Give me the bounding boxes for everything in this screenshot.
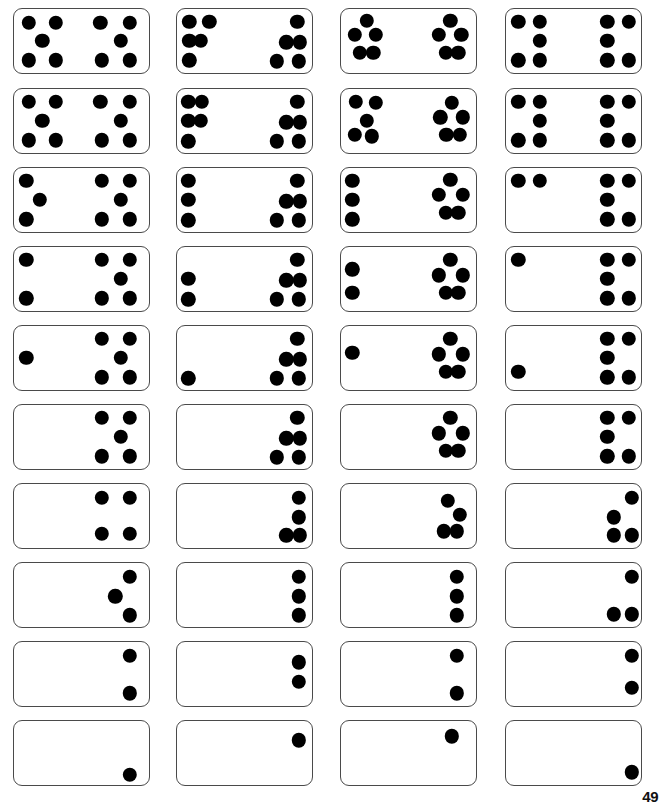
domino-half-right [245,9,313,73]
domino-pip [181,174,195,188]
domino-tile[interactable] [13,483,150,549]
domino-pip [600,114,614,128]
domino-tile[interactable] [13,641,150,707]
domino-tile[interactable] [505,483,642,549]
domino-tile[interactable] [505,88,642,154]
domino-pip [123,212,137,226]
domino-pip [95,332,109,346]
domino-pip [19,212,33,226]
domino-pip [451,206,465,220]
domino-tile[interactable] [176,167,313,233]
domino-pip [123,174,137,188]
domino-pip [443,13,457,27]
domino-tile[interactable] [13,8,150,74]
domino-pip [123,332,137,346]
domino-tile[interactable] [13,88,150,154]
domino-tile[interactable] [176,8,313,74]
domino-pip [95,212,109,226]
domino-pip [455,268,469,282]
domino-tile[interactable] [340,641,477,707]
domino-half-left [341,247,409,311]
domino-pip [511,15,525,29]
domino-tile[interactable] [176,246,313,312]
domino-pip [453,128,467,142]
domino-tile[interactable] [13,167,150,233]
domino-tile[interactable] [340,8,477,74]
domino-tile[interactable] [340,167,477,233]
domino-tile[interactable] [13,562,150,628]
domino-tile[interactable] [340,562,477,628]
domino-pip [95,491,109,505]
domino-pip [291,608,305,622]
domino-pip [624,765,638,779]
domino-tile[interactable] [176,325,313,391]
domino-tile[interactable] [176,720,313,786]
domino-pip [95,527,109,541]
domino-tile[interactable] [13,720,150,786]
domino-half-right [409,405,477,469]
domino-tile[interactable] [505,404,642,470]
domino-pip [622,370,636,384]
domino-tile[interactable] [505,720,642,786]
domino-pip [290,15,304,29]
domino-pip [22,16,36,30]
domino-half-left [14,326,82,390]
domino-pip [181,371,195,385]
domino-pip [451,286,465,300]
domino-tile[interactable] [176,88,313,154]
domino-pip [19,291,33,305]
domino-tile[interactable] [340,246,477,312]
domino-tile[interactable] [176,641,313,707]
domino-pip [359,114,373,128]
domino-tile[interactable] [505,641,642,707]
domino-half-right [409,563,477,627]
domino-pip [600,15,614,29]
domino-pip [123,649,137,663]
domino-pip [450,686,464,700]
domino-tile[interactable] [505,562,642,628]
domino-tile[interactable] [505,246,642,312]
domino-half-right [409,89,477,153]
domino-pip [622,53,636,67]
domino-half-right [409,721,477,785]
domino-tile[interactable] [505,167,642,233]
domino-tile[interactable] [505,8,642,74]
domino-pip [533,53,547,67]
domino-tile[interactable] [176,404,313,470]
domino-pip [270,371,284,385]
domino-tile[interactable] [340,483,477,549]
domino-pip [113,114,127,128]
domino-tile[interactable] [505,325,642,391]
domino-pip [600,253,614,267]
domino-pip [291,655,305,669]
domino-half-right [82,9,150,73]
domino-half-left [14,642,82,706]
domino-tile[interactable] [13,325,150,391]
domino-pip [369,27,383,41]
domino-pip [193,114,207,128]
domino-tile[interactable] [13,404,150,470]
domino-pip [600,212,614,226]
domino-half-right [245,484,313,548]
domino-tile[interactable] [340,404,477,470]
domino-pip [451,45,465,59]
domino-half-left [506,9,574,73]
domino-pip [533,34,547,48]
domino-tile[interactable] [340,88,477,154]
domino-pip [291,213,305,227]
domino-half-left [177,405,245,469]
domino-pip [290,174,304,188]
domino-pip [19,174,33,188]
domino-tile[interactable] [340,720,477,786]
domino-half-right [574,642,642,706]
domino-half-left [506,642,574,706]
domino-tile[interactable] [176,562,313,628]
domino-tile[interactable] [13,246,150,312]
domino-pip [291,450,305,464]
domino-pip [624,681,638,695]
domino-pip [22,53,36,67]
domino-tile[interactable] [176,483,313,549]
domino-half-right [574,721,642,785]
domino-pip [270,450,284,464]
domino-tile[interactable] [340,325,477,391]
